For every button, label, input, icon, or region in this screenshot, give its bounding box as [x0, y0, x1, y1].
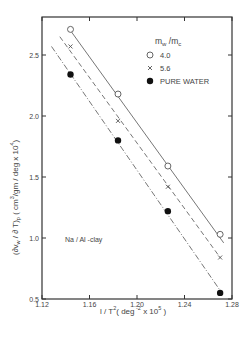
x-tick-label: 1.24 [178, 301, 192, 308]
open-circle-marker [165, 163, 171, 169]
data-points [67, 26, 223, 296]
y-axis-label: (∂vw / ∂ T)p ( cm3/gm / deg x 104) [9, 139, 21, 255]
axes: 1.121.161.201.241.280.51.01.52.02.5 [29, 17, 239, 308]
fit-lines [52, 31, 224, 291]
fit-line [71, 31, 224, 243]
y-tick-label: 1.0 [29, 235, 39, 242]
cross-marker [218, 256, 222, 260]
svg-text:l / T2( deg -2 x 105 ): l / T2( deg -2 x 105 ) [100, 305, 167, 316]
legend: mw /mc 4.05.6PURE WATER [147, 36, 210, 86]
filled-circle-marker [217, 290, 223, 296]
y-tick-label: 2.5 [29, 52, 39, 59]
filled-circle-marker [115, 137, 121, 143]
open-circle-marker [115, 91, 121, 97]
plot-frame [42, 17, 232, 299]
filled-circle-marker [67, 71, 73, 77]
x-tick-label: 1.28 [225, 301, 239, 308]
filled-circle-marker [165, 208, 171, 214]
fit-line [60, 37, 220, 258]
legend-label: 4.0 [160, 51, 170, 60]
y-tick-label: 2.0 [29, 113, 39, 120]
legend-title: mw /mc [155, 36, 181, 47]
open-circle-marker [147, 52, 153, 58]
chart: 1.121.161.201.241.280.51.01.52.02.5 Na /… [0, 0, 249, 338]
cross-marker [69, 44, 73, 48]
cross-marker [148, 66, 152, 70]
annotation-label: Na / Al -clay [65, 236, 103, 244]
y-tick-label: 1.5 [29, 174, 39, 181]
legend-label: PURE WATER [160, 77, 210, 86]
svg-text:(∂vw / ∂ T)p ( cm3/gm / deg: (∂vw / ∂ T)p ( cm3/gm / deg x 104) [9, 139, 21, 255]
open-circle-marker [217, 231, 223, 237]
x-axis-label: l / T2( deg -2 x 105 ) [100, 305, 167, 316]
x-tick-label: 1.16 [83, 301, 97, 308]
filled-circle-marker [147, 78, 153, 84]
legend-label: 5.6 [160, 64, 170, 73]
cross-marker [116, 119, 120, 123]
plot-border [42, 17, 232, 299]
y-tick-label: 0.5 [29, 296, 39, 303]
open-circle-marker [68, 26, 74, 32]
